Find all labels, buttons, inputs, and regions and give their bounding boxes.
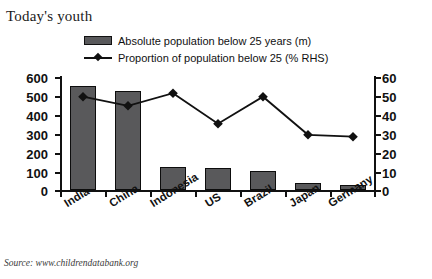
marker-germany-icon	[348, 132, 358, 142]
x-tick-3	[195, 191, 197, 197]
y2-axis-label-20: 20	[382, 148, 422, 161]
bar-us	[205, 168, 231, 190]
y2-tick-0	[376, 190, 381, 192]
y2-axis-label-60: 60	[382, 72, 422, 85]
x-tick-4	[240, 191, 242, 197]
y-tick-300	[55, 134, 60, 136]
y-axis-line	[60, 76, 62, 192]
y-axis-label-100: 100	[0, 167, 48, 180]
x-tick-7	[374, 191, 376, 197]
legend-item-proportion: Proportion of population below 25 (% RHS…	[84, 50, 414, 65]
y-axis-label-400: 400	[0, 110, 48, 123]
y2-axis-label-0: 0	[382, 185, 422, 198]
x-label-india: India	[62, 185, 91, 209]
y-tick-200	[55, 153, 60, 155]
y2-tick-10	[376, 172, 381, 174]
y-axis-label-300: 300	[0, 129, 48, 142]
y2-tick-50	[376, 96, 381, 98]
source-prefix: Source:	[4, 258, 33, 268]
legend-line-diamond-icon	[84, 53, 112, 62]
chart-title: Today's youth	[6, 8, 92, 25]
x-tick-0	[60, 191, 62, 197]
y2-tick-60	[376, 77, 381, 79]
x-tick-5	[285, 191, 287, 197]
y-tick-600	[55, 77, 60, 79]
legend-label-proportion: Proportion of population below 25 (% RHS…	[118, 52, 328, 64]
y-axis-label-0: 0	[0, 185, 48, 198]
y-axis-label-500: 500	[0, 91, 48, 104]
y2-tick-40	[376, 115, 381, 117]
y-tick-500	[55, 96, 60, 98]
marker-us-icon	[213, 119, 223, 129]
bar-china	[115, 91, 141, 190]
legend-label-absolute-population: Absolute population below 25 years (m)	[118, 35, 311, 47]
y-tick-100	[55, 172, 60, 174]
chart-figure: Today's youth Absolute population below …	[0, 0, 432, 279]
y2-tick-20	[376, 153, 381, 155]
source-note: Source: www.childrendatabank.org	[4, 258, 138, 268]
bar-india	[70, 86, 96, 190]
x-tick-1	[105, 191, 107, 197]
legend-bar-swatch-icon	[84, 36, 112, 45]
y-axis-label-600: 600	[0, 72, 48, 85]
y2-axis-label-40: 40	[382, 110, 422, 123]
x-axis-line	[60, 190, 376, 192]
chart-legend: Absolute population below 25 years (m) P…	[84, 33, 414, 67]
source-url: www.childrendatabank.org	[36, 258, 139, 268]
y-tick-400	[55, 115, 60, 117]
y2-axis-label-30: 30	[382, 129, 422, 142]
marker-indonesia-icon	[168, 88, 178, 98]
y2-tick-30	[376, 134, 381, 136]
x-label-us: US	[203, 191, 223, 210]
marker-japan-icon	[303, 130, 313, 140]
legend-item-absolute-population: Absolute population below 25 years (m)	[84, 33, 414, 48]
y2-axis-label-10: 10	[382, 167, 422, 180]
y2-axis-label-50: 50	[382, 91, 422, 104]
marker-brazil-icon	[258, 92, 268, 102]
y-axis-label-200: 200	[0, 148, 48, 161]
